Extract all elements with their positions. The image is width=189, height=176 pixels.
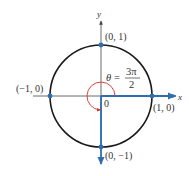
y-axis-label: y	[96, 9, 101, 19]
origin-label: 0	[104, 98, 109, 109]
theta-symbol: θ	[106, 72, 111, 83]
point-left-label: (−1, 0)	[16, 83, 43, 95]
x-axis-label: x	[177, 92, 182, 102]
point-top-label: (0, 1)	[105, 31, 127, 43]
fraction-denominator: 2	[129, 79, 134, 90]
fraction-numerator: 3π	[126, 66, 137, 77]
point-bottom-label: (0, −1)	[105, 150, 132, 162]
point-right-label: (1, 0)	[153, 102, 175, 114]
equals-sign: =	[114, 72, 120, 83]
point-bottom	[99, 145, 104, 150]
point-right	[150, 94, 155, 99]
point-top	[99, 43, 104, 48]
point-left	[48, 94, 53, 99]
unit-circle-diagram: y x 0 (0, 1) (−1, 0) (1, 0) (0, −1) θ = …	[0, 0, 189, 176]
